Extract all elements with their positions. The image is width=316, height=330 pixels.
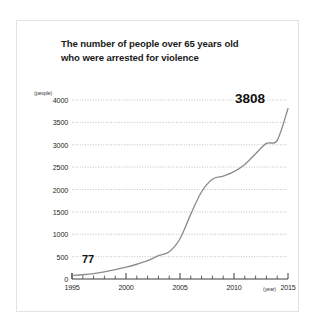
y-axis-tick-label: 1000 [34, 230, 68, 239]
gridlines [72, 100, 288, 257]
y-axis-tick-label: 2500 [34, 163, 68, 172]
x-axis-tick-label: 2005 [160, 283, 200, 292]
x-axis-tick-label: 2015 [268, 283, 308, 292]
x-axis-tick-label: 1995 [52, 283, 92, 292]
data-label-start: 77 [82, 253, 94, 265]
y-axis-tick-label: 1500 [34, 207, 68, 216]
y-axis-tick-label: 3000 [34, 140, 68, 149]
plot-area: (people) (year) 400035003000250020001500… [17, 21, 300, 313]
x-axis-tick-label: 2010 [214, 283, 254, 292]
data-series-line [72, 109, 288, 276]
y-axis-tick-label: 500 [34, 252, 68, 261]
data-label-end: 3808 [235, 91, 265, 106]
x-axis-ticks [72, 273, 288, 279]
figure-frame: The number of people over 65 years old w… [16, 20, 299, 312]
y-axis-tick-label: 2000 [34, 185, 68, 194]
y-axis-tick-label: 3500 [34, 118, 68, 127]
y-axis-tick-label: 4000 [34, 96, 68, 105]
x-axis-tick-label: 2000 [106, 283, 146, 292]
